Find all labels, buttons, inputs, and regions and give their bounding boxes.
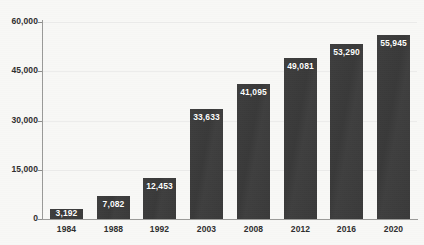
x-axis-label: 1988 <box>91 224 137 234</box>
bar-value-label: 33,633 <box>190 112 223 122</box>
bar-group[interactable]: 53,290 <box>330 22 363 219</box>
x-axis-line <box>42 219 418 220</box>
y-axis-tick-label: 15,000 <box>0 164 38 174</box>
bar[interactable] <box>330 44 363 219</box>
bar-group[interactable]: 49,081 <box>284 22 317 219</box>
y-axis-tick-label: 45,000 <box>0 65 38 75</box>
x-axis-label: 2012 <box>278 224 324 234</box>
bar-group[interactable]: 33,633 <box>190 22 223 219</box>
x-axis-label: 2003 <box>184 224 230 234</box>
bar-value-label: 53,290 <box>330 47 363 57</box>
x-axis-label: 2008 <box>231 224 277 234</box>
x-axis-label: 1984 <box>44 224 90 234</box>
bar[interactable] <box>237 84 270 219</box>
bar[interactable] <box>377 35 410 219</box>
bar-value-label: 41,095 <box>237 87 270 97</box>
bar-value-label: 49,081 <box>284 61 317 71</box>
bar-group[interactable]: 55,945 <box>377 22 410 219</box>
bar-value-label: 7,082 <box>97 199 130 209</box>
bar-group[interactable]: 3,192 <box>50 22 83 219</box>
bar[interactable] <box>190 109 223 219</box>
plot-area: 3,1927,08212,45333,63341,09549,08153,290… <box>43 22 417 219</box>
bar-group[interactable]: 7,082 <box>97 22 130 219</box>
x-axis-label: 2016 <box>324 224 370 234</box>
bar-group[interactable]: 41,095 <box>237 22 270 219</box>
y-axis-tick-label: 30,000 <box>0 115 38 125</box>
bar-value-label: 55,945 <box>377 38 410 48</box>
bar-value-label: 3,192 <box>50 208 83 218</box>
x-axis-label: 1992 <box>137 224 183 234</box>
bar-chart: 015,00030,00045,00060,000 3,1927,08212,4… <box>0 0 424 245</box>
bar[interactable] <box>284 58 317 219</box>
bar-group[interactable]: 12,453 <box>143 22 176 219</box>
y-axis-tick-label: 60,000 <box>0 16 38 26</box>
bar-value-label: 12,453 <box>143 181 176 191</box>
x-axis-label: 2020 <box>371 224 417 234</box>
y-axis-tick-label: 0 <box>0 213 38 223</box>
